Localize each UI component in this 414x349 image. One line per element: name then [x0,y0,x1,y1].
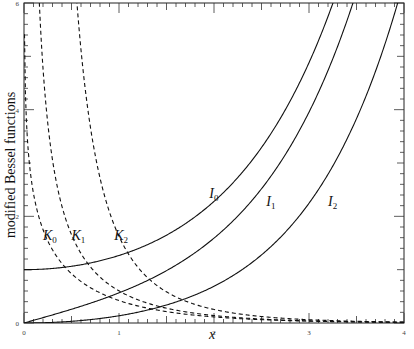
curves [24,0,404,323]
y-tick-label: 6 [16,0,20,8]
bessel-chart: 012340246 I0I1I2K0K1K2 [0,0,414,349]
label-K1: K1 [71,228,86,245]
x-tick-label: 3 [307,329,311,337]
label-I1: I1 [265,194,275,211]
curve-K2 [77,0,404,322]
label-K2: K2 [113,228,128,245]
x-axis-label: x [209,327,215,343]
curve-labels: I0I1I2K0K1K2 [42,186,337,246]
curve-K1 [39,0,404,322]
curve-I1 [24,0,357,323]
tick-labels: 012340246 [16,0,407,337]
label-I0: I0 [208,186,219,203]
y-axis-label: modified Bessel functions [3,92,19,238]
x-tick-label: 4 [402,329,406,337]
curve-K0 [24,34,404,322]
y-tick-label: 0 [16,320,20,328]
x-tick-label: 0 [22,329,26,337]
x-tick-label: 1 [117,329,121,337]
label-K0: K0 [42,228,57,245]
label-I2: I2 [327,194,337,211]
